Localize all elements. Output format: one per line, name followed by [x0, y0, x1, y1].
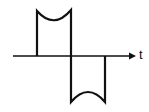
time-axis-label: t — [139, 48, 143, 61]
axis-arrowhead-icon — [129, 53, 136, 60]
positive-pulse — [37, 10, 71, 56]
waveform-diagram — [0, 0, 149, 112]
negative-pulse — [71, 56, 105, 102]
